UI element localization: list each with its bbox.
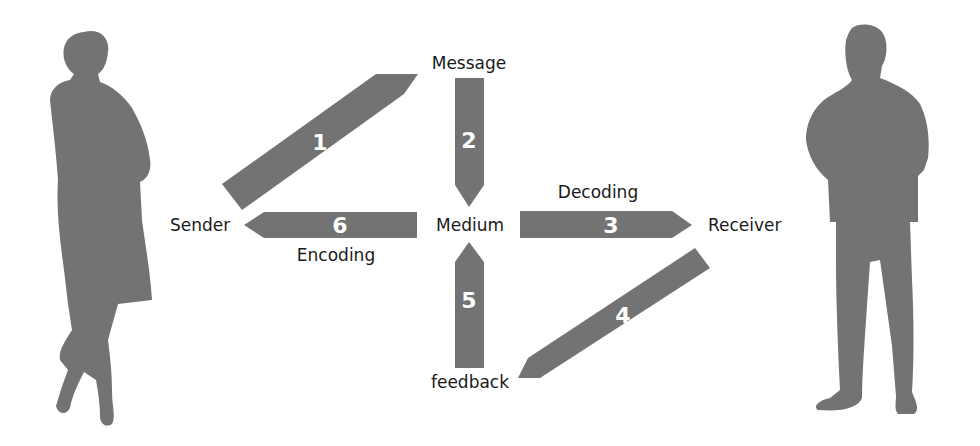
arrow-3-medium-to-receiver: 3 <box>520 211 692 238</box>
man-silhouette-icon <box>806 25 929 414</box>
arrow-number-3: 3 <box>603 213 618 238</box>
arrow-number-4: 4 <box>615 303 630 328</box>
communication-diagram: 1 2 3 4 5 6 Message Medium Sender Receiv… <box>0 0 980 446</box>
label-feedback: feedback <box>431 372 509 392</box>
label-sender: Sender <box>170 215 230 235</box>
label-message: Message <box>432 53 507 73</box>
woman-silhouette-icon <box>50 31 152 425</box>
arrow-number-6: 6 <box>332 213 347 238</box>
arrow-6-medium-to-sender: 6 <box>244 212 417 238</box>
label-encoding: Encoding <box>297 245 375 265</box>
arrow-number-1: 1 <box>312 130 327 155</box>
arrow-4-receiver-to-feedback: 4 <box>518 248 710 378</box>
arrow-number-2: 2 <box>461 128 476 153</box>
label-receiver: Receiver <box>708 215 782 235</box>
arrow-2-message-to-medium: 2 <box>455 78 484 207</box>
arrow-number-5: 5 <box>461 288 476 313</box>
arrow-1-sender-to-message: 1 <box>222 74 418 210</box>
label-decoding: Decoding <box>558 182 638 202</box>
label-medium: Medium <box>436 215 504 235</box>
arrow-5-feedback-to-medium: 5 <box>455 242 484 368</box>
